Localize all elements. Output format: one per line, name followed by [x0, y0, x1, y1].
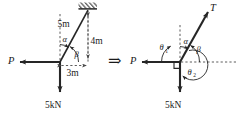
label-alpha: α	[63, 34, 68, 44]
figure-canvas: 5m 4m 3m α β P 5kN ⇒	[0, 0, 239, 113]
fbd-label-force-p: P	[129, 55, 137, 66]
fbd-angle-alpha-arc	[180, 47, 188, 49]
label-beta: β	[74, 49, 80, 59]
fbd-label-theta1: θ 1	[160, 42, 169, 54]
fbd-label-theta2-glyph: θ	[188, 67, 192, 77]
left-space-diagram: 5m 4m 3m α β P 5kN	[7, 3, 103, 111]
implies-symbol: ⇒	[108, 52, 121, 69]
label-force-weight: 5kN	[45, 100, 62, 110]
right-angle-square-icon	[174, 62, 180, 68]
fbd-label-theta2-subscript: 2	[193, 72, 196, 78]
fbd-label-theta2: θ 2	[188, 67, 197, 79]
label-tension: T	[210, 2, 217, 13]
right-free-body-diagram: T α β θ 1 θ 2 P 5kN	[129, 2, 236, 110]
fixed-support-hatching	[79, 3, 98, 9]
label-4m: 4m	[91, 36, 104, 46]
angle-alpha-arc	[60, 45, 69, 48]
fbd-label-theta1-glyph: θ	[160, 42, 164, 52]
figure-root: 5m 4m 3m α β P 5kN ⇒	[0, 0, 239, 113]
label-5m: 5m	[58, 19, 71, 29]
fbd-label-force-weight: 5kN	[165, 100, 182, 110]
fbd-label-theta1-subscript: 1	[165, 48, 168, 54]
label-3m: 3m	[67, 68, 80, 78]
implies-arrow: ⇒	[108, 52, 121, 69]
fbd-label-beta: β	[196, 44, 202, 54]
label-force-p: P	[7, 55, 15, 66]
fbd-label-alpha: α	[184, 36, 189, 46]
